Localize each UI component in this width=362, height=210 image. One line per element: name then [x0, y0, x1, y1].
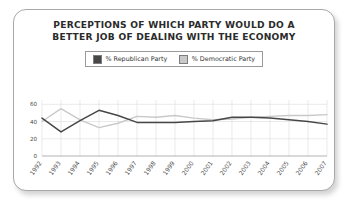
x-axis-tick-label: 2001 [199, 159, 214, 176]
line-chart-svg: 0204060 19921993199419951996199719981999… [14, 94, 335, 191]
x-axis-tick-label: 1992 [28, 159, 43, 176]
title-line-2: BETTER JOB OF DEALING WITH THE ECONOMY [30, 31, 318, 43]
x-axis-tick-label: 2000 [180, 159, 195, 176]
x-axis-tick-label: 1994 [66, 159, 81, 176]
y-axis-tick-label: 60 [30, 101, 38, 107]
x-axis-tick-label: 2005 [275, 159, 290, 176]
legend-item-republican: % Republican Party [93, 55, 167, 64]
y-axis-tick-label: 0 [33, 153, 37, 159]
chart-card: PERCEPTIONS OF WHICH PARTY WOULD DO A BE… [13, 9, 335, 191]
x-axis-tick-label: 2007 [313, 159, 328, 176]
x-axis-tick-label: 2002 [218, 159, 233, 176]
plot-area: 0204060 19921993199419951996199719981999… [14, 94, 335, 191]
legend-swatch-republican [93, 55, 102, 64]
x-axis-tick-label: 1996 [104, 159, 119, 176]
y-axis-ticks: 0204060 [30, 101, 38, 159]
page-title: PERCEPTIONS OF WHICH PARTY WOULD DO A BE… [14, 10, 334, 43]
x-axis-tick-label: 1999 [161, 159, 176, 176]
grid-lines [42, 100, 327, 156]
legend-container: % Republican Party % Democratic Party [14, 51, 334, 67]
legend-item-democratic: % Democratic Party [179, 55, 255, 64]
x-axis-tick-label: 2003 [237, 159, 252, 176]
data-series-layer [42, 109, 327, 132]
x-axis-tick-label: 1993 [47, 159, 62, 176]
x-axis-tick-label: 1997 [123, 159, 138, 176]
x-axis-tick-label: 1998 [142, 159, 157, 176]
chart-legend: % Republican Party % Democratic Party [85, 51, 263, 67]
title-line-1: PERCEPTIONS OF WHICH PARTY WOULD DO A [30, 19, 318, 31]
x-axis-tick-label: 1995 [85, 159, 100, 176]
legend-swatch-democratic [179, 55, 188, 64]
legend-label-democratic: % Democratic Party [192, 55, 255, 63]
legend-label-republican: % Republican Party [105, 55, 167, 63]
y-axis-tick-label: 20 [30, 136, 38, 142]
x-axis-ticks: 1992199319941995199619971998199920002001… [28, 159, 328, 176]
x-axis-tick-label: 2006 [294, 159, 309, 176]
x-axis-tick-label: 2004 [256, 159, 271, 176]
y-axis-tick-label: 40 [30, 119, 38, 125]
